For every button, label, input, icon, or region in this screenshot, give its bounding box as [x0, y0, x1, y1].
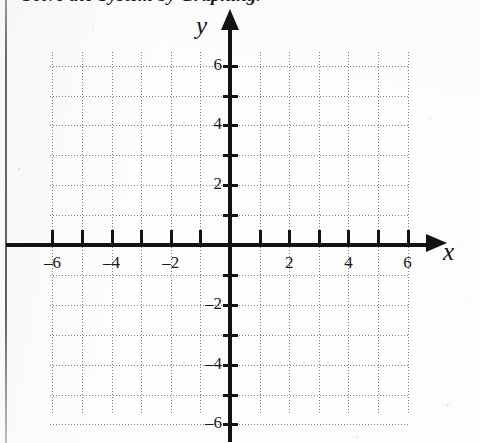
y-axis-tick [223, 154, 238, 157]
y-axis-tick [223, 274, 238, 277]
y-tick-label: 6 [196, 55, 222, 75]
coordinate-plane: –6–4–2246642–2–4–6 y x [0, 0, 480, 443]
y-axis-tick [223, 394, 238, 397]
arrow-up-icon [221, 9, 239, 30]
y-axis-tick [223, 184, 238, 187]
x-axis-tick [259, 230, 262, 245]
worksheet-page: Solve the System by Graphing. –6–4–22466… [0, 0, 480, 443]
y-tick-label: –6 [196, 413, 222, 433]
y-axis-tick [223, 65, 238, 68]
x-axis-tick [318, 230, 321, 245]
x-axis-tick [347, 230, 350, 245]
y-axis-tick [223, 95, 238, 98]
x-tick-label: 2 [276, 253, 302, 273]
x-axis-tick [407, 230, 410, 245]
y-axis-tick [223, 423, 238, 426]
x-axis-tick [170, 230, 173, 245]
y-axis-line [228, 26, 232, 442]
x-axis-tick [288, 230, 291, 245]
x-tick-label: –6 [39, 253, 65, 273]
x-axis-tick [111, 230, 114, 245]
x-tick-label: 4 [335, 253, 361, 273]
x-axis-tick [81, 230, 84, 245]
y-tick-label: –2 [196, 294, 222, 314]
y-axis-tick [223, 124, 238, 127]
y-tick-label: 4 [196, 114, 222, 134]
x-axis-tick [199, 230, 202, 245]
y-axis-tick [223, 214, 238, 217]
x-axis-line [6, 243, 430, 247]
x-axis-label: x [443, 238, 454, 266]
x-tick-label: –2 [158, 253, 184, 273]
y-axis-tick [223, 364, 238, 367]
y-axis-tick [223, 334, 238, 337]
y-tick-label: –4 [196, 354, 222, 374]
y-axis-label: y [196, 12, 207, 40]
y-tick-label: 2 [196, 174, 222, 194]
x-axis-tick [51, 230, 54, 245]
y-axis-tick [223, 304, 238, 307]
x-tick-label: 6 [395, 253, 421, 273]
x-tick-label: –4 [99, 253, 125, 273]
x-axis-tick [377, 230, 380, 245]
x-axis-tick [140, 230, 143, 245]
